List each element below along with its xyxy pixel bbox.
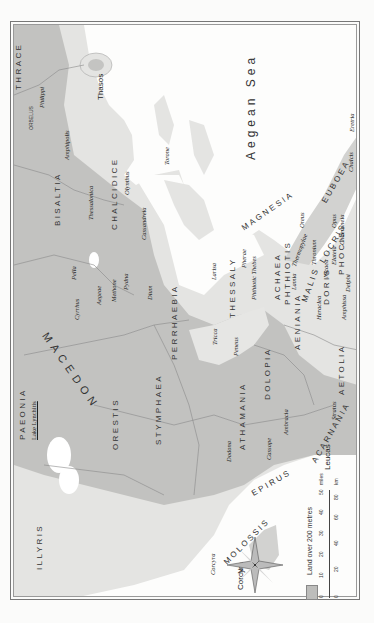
city-ambracia: Ambracia bbox=[282, 409, 289, 435]
region-bisaltia: BISALTIA bbox=[53, 172, 62, 226]
city-aegeae: Aegeae bbox=[95, 286, 102, 305]
region-perrhaebia: PERRHAEBIA bbox=[170, 284, 179, 360]
region-achaea: ACHAEA bbox=[273, 253, 282, 300]
region-athamania: ATHAMANIA bbox=[238, 382, 247, 450]
region-dolopia: DOLOPIA bbox=[263, 348, 272, 400]
city-heraclea: Heraclea bbox=[315, 296, 322, 320]
region-stymphaea: STYMPHAEA bbox=[154, 374, 163, 445]
scale-miles-unit: miles bbox=[318, 473, 324, 485]
scale-mile-10: 10 bbox=[318, 572, 324, 578]
region-thrace: THRACE bbox=[14, 43, 23, 90]
label-aegean-sea: Aegean Sea bbox=[244, 54, 258, 160]
city-corcyra: Corcyra bbox=[209, 554, 216, 575]
city-larisa: Larisa bbox=[210, 263, 217, 280]
region-orestis: ORESTIS bbox=[111, 398, 120, 450]
city-methone: Methone bbox=[110, 279, 117, 302]
city-delphi: Delphi bbox=[344, 274, 351, 292]
city-chaeroneia: Chaeroneia bbox=[338, 215, 345, 245]
city-olynthus: Olynthus bbox=[123, 172, 130, 195]
scale-mile-20: 20 bbox=[318, 551, 324, 557]
scale-km-60: 60 bbox=[333, 514, 339, 520]
region-illyris: ILLYRIS bbox=[35, 524, 44, 570]
scale-km-unit: km bbox=[333, 478, 339, 485]
city-cassope: Cassope bbox=[265, 438, 272, 460]
city-pydna: Pydna bbox=[122, 273, 129, 290]
compass-north-label: N bbox=[236, 568, 245, 574]
city-thessalonica: Thessalonica bbox=[87, 186, 94, 220]
city-peneus-river: Peneus bbox=[232, 337, 239, 356]
city-nicaea: Nicaea bbox=[322, 260, 329, 278]
city-stratus: Stratus bbox=[330, 402, 337, 420]
scale-km-40: 40 bbox=[333, 540, 339, 546]
scale-km-80: 80 bbox=[333, 494, 339, 500]
region-chalcidice: CHALCIDICE bbox=[110, 158, 119, 230]
city-pherae: Pherae bbox=[240, 249, 247, 268]
label-orbelus: ORBELUS bbox=[28, 106, 34, 130]
region-thessaly: THESSALY bbox=[228, 258, 237, 318]
scale-km-20: 20 bbox=[333, 566, 339, 572]
city-chalcis: Chalcis bbox=[347, 152, 354, 172]
label-lake-lynchitis: Lake Lynchitis bbox=[30, 401, 37, 440]
legend-land-label: Land over 200 metres bbox=[306, 507, 313, 575]
region-paeonia: PAEONIA bbox=[18, 388, 27, 440]
compass-rose-icon bbox=[225, 535, 285, 595]
label-thasos: Thasos bbox=[96, 74, 105, 100]
city-tricca: Tricca bbox=[211, 328, 218, 345]
scale-bar bbox=[329, 490, 330, 598]
city-elateia: Elateia bbox=[330, 246, 337, 265]
city-dodona: Dodona bbox=[225, 441, 232, 462]
scale-mile-40: 40 bbox=[318, 509, 324, 515]
city-oreus: Oreus bbox=[298, 212, 305, 228]
city-torone: Torone bbox=[163, 147, 170, 165]
legend-land-swatch bbox=[306, 585, 318, 600]
region-aeniania: AENIANIA bbox=[293, 293, 302, 350]
scale-mile-50: 50 bbox=[318, 489, 324, 495]
scale-mile-0: 0 bbox=[318, 595, 324, 598]
scale-km-0: 0 bbox=[333, 595, 339, 598]
city-amphissa: Amphissa bbox=[340, 295, 347, 320]
city-thronium: Thronium bbox=[310, 240, 317, 265]
region-aetolia: AETOLIA bbox=[337, 345, 346, 395]
city-phthiotic-thebes: Phthiotic Thebes bbox=[250, 256, 257, 300]
city-pella: Pella bbox=[70, 266, 77, 280]
city-philippi: Philippi bbox=[38, 87, 45, 108]
city-eretria: Eretria bbox=[348, 113, 355, 132]
scale-mile-30: 30 bbox=[318, 530, 324, 536]
city-cassandreia: Cassandreia bbox=[140, 207, 147, 240]
city-dium: Dium bbox=[146, 286, 153, 300]
city-lamia: Lamia bbox=[290, 273, 297, 290]
city-cyrrhus: Cyrrhus bbox=[73, 299, 80, 320]
city-amphipolis: Amphipolis bbox=[63, 130, 70, 160]
city-opus: Opus bbox=[330, 214, 337, 228]
